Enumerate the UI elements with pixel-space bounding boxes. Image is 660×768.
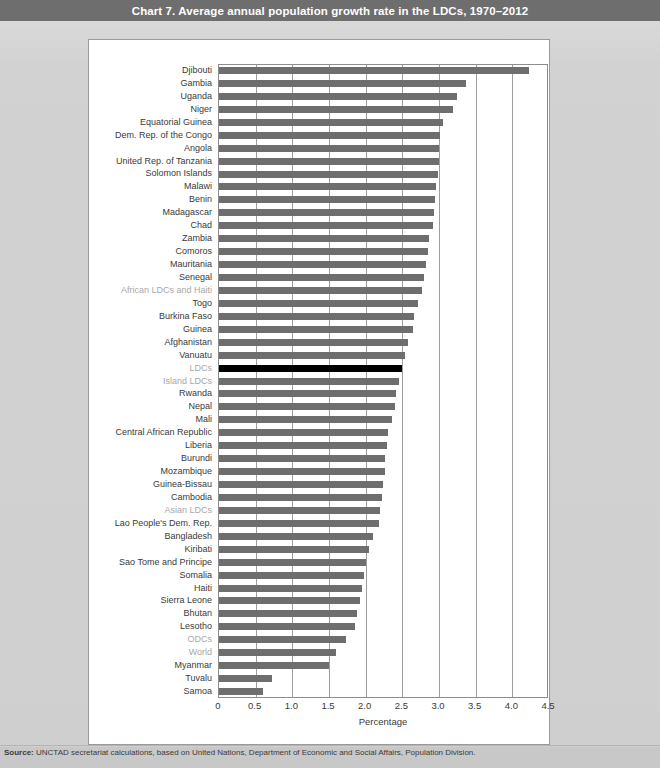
bar-row	[219, 453, 547, 466]
bar-united-rep-of-tanzania	[219, 158, 439, 165]
y-axis-label: Solomon Islands	[145, 168, 212, 179]
bar-row	[219, 311, 547, 324]
y-axis-label: Nepal	[188, 401, 212, 412]
bar-row	[219, 246, 547, 259]
x-axis-ticks: 00.51.01.52.02.53.03.54.04.5	[218, 700, 548, 714]
source-text: UNCTAD secretariat calculations, based o…	[36, 748, 475, 757]
y-axis-labels: DjiboutiGambiaUgandaNigerEquatorial Guin…	[89, 64, 216, 698]
bar-odcs	[219, 636, 346, 643]
bar-burundi	[219, 455, 385, 462]
bar-angola	[219, 145, 439, 152]
bar-row	[219, 130, 547, 143]
bar-myanmar	[219, 662, 329, 669]
y-axis-label: Lesotho	[180, 621, 212, 632]
bar-row	[219, 479, 547, 492]
bar-row	[219, 259, 547, 272]
y-axis-label: African LDCs and Haiti	[121, 285, 212, 296]
bar-row	[219, 401, 547, 414]
bar-guinea-bissau	[219, 481, 383, 488]
y-axis-label: Guinea	[183, 324, 212, 335]
source-label: Source:	[4, 748, 34, 757]
y-axis-label: Angola	[184, 143, 212, 154]
bar-row	[219, 298, 547, 311]
y-axis-label: Gambia	[180, 78, 212, 89]
y-axis-label: Bhutan	[183, 608, 212, 619]
y-axis-label: Benin	[189, 194, 212, 205]
y-axis-label: Haiti	[194, 583, 212, 594]
gridline-4.5	[549, 65, 550, 697]
y-axis-label: World	[189, 647, 212, 658]
bar-kiribati	[219, 546, 369, 553]
y-axis-label: Sierra Leone	[160, 595, 212, 606]
x-tick-label: 4.0	[505, 700, 518, 711]
bar-row	[219, 673, 547, 686]
bar-madagascar	[219, 209, 434, 216]
x-tick-label: 0	[215, 700, 220, 711]
y-axis-label: LDCs	[189, 363, 212, 374]
bar-row	[219, 350, 547, 363]
bar-row	[219, 583, 547, 596]
y-axis-label: United Rep. of Tanzania	[116, 156, 212, 167]
bar-row	[219, 337, 547, 350]
bar-row	[219, 272, 547, 285]
bar-row	[219, 647, 547, 660]
y-axis-label: Kiribati	[184, 544, 212, 555]
x-tick-label: 2.5	[395, 700, 408, 711]
y-axis-label: Rwanda	[179, 388, 212, 399]
bar-row	[219, 104, 547, 117]
bar-bhutan	[219, 610, 357, 617]
y-axis-label: Mauritania	[170, 259, 212, 270]
bar-row	[219, 78, 547, 91]
bar-malawi	[219, 183, 436, 190]
bar-row	[219, 686, 547, 699]
y-axis-label: Malawi	[184, 181, 212, 192]
bar-row	[219, 414, 547, 427]
bar-ldcs	[219, 365, 402, 372]
bar-row	[219, 621, 547, 634]
chart-card: DjiboutiGambiaUgandaNigerEquatorial Guin…	[0, 21, 660, 747]
y-axis-label: Mozambique	[160, 466, 212, 477]
bar-row	[219, 324, 547, 337]
bar-togo	[219, 300, 418, 307]
y-axis-label: Uganda	[180, 91, 212, 102]
bar-african-ldcs-and-haiti	[219, 287, 422, 294]
y-axis-label: Myanmar	[174, 660, 212, 671]
bar-equatorial-guinea	[219, 119, 443, 126]
bar-row	[219, 233, 547, 246]
bar-mali	[219, 416, 392, 423]
y-axis-label: Chad	[190, 220, 212, 231]
y-axis-label: ODCs	[188, 634, 213, 645]
bar-senegal	[219, 274, 424, 281]
bar-somalia	[219, 572, 364, 579]
y-axis-label: Sao Tome and Principe	[119, 557, 212, 568]
bar-rwanda	[219, 390, 396, 397]
bar-row	[219, 220, 547, 233]
bar-solomon-islands	[219, 171, 438, 178]
bar-row	[219, 557, 547, 570]
bar-row	[219, 156, 547, 169]
bar-row	[219, 194, 547, 207]
bar-row	[219, 207, 547, 220]
x-tick-label: 4.5	[541, 700, 554, 711]
page-title: Chart 7. Average annual population growt…	[132, 5, 529, 17]
bar-haiti	[219, 585, 362, 592]
bar-sierra-leone	[219, 597, 360, 604]
bar-row	[219, 531, 547, 544]
y-axis-label: Djibouti	[182, 65, 212, 76]
bar-chad	[219, 222, 433, 229]
x-tick-label: 0.5	[248, 700, 261, 711]
x-axis-title: Percentage	[218, 716, 548, 727]
bar-lesotho	[219, 623, 355, 630]
x-tick-label: 1.5	[321, 700, 334, 711]
bar-sao-tome-and-principe	[219, 559, 366, 566]
bar-row	[219, 427, 547, 440]
bar-niger	[219, 106, 453, 113]
bar-row	[219, 91, 547, 104]
bar-row	[219, 65, 547, 78]
y-axis-label: Liberia	[185, 440, 212, 451]
x-tick-label: 2.0	[358, 700, 371, 711]
bar-row	[219, 363, 547, 376]
source-note: Source: UNCTAD secretariat calculations,…	[4, 748, 656, 768]
bar-row	[219, 570, 547, 583]
y-axis-label: Zambia	[182, 233, 212, 244]
